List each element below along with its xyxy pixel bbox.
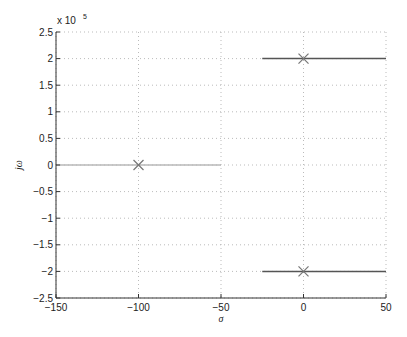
y-exponent-superscript: 5	[83, 13, 87, 20]
y-tick-label: −1	[42, 213, 54, 224]
y-axis-label: jω	[13, 160, 24, 172]
y-tick-label: 1.5	[39, 80, 53, 91]
y-tick-label: 1	[47, 106, 53, 117]
y-tick-label: −1.5	[33, 239, 53, 250]
y-exponent-label: x 10	[57, 15, 76, 26]
y-tick-label: 2	[47, 53, 53, 64]
x-axis-label: σ	[219, 313, 225, 324]
y-tick-label: −2.5	[33, 293, 53, 304]
tick-labels: −150−100−500502.521.510.50−0.5−1−1.5−2−2…	[33, 27, 392, 314]
y-tick-label: 2.5	[39, 27, 53, 38]
y-tick-label: 0	[47, 160, 53, 171]
y-tick-label: −2	[42, 266, 54, 277]
x-tick-label: 0	[301, 302, 307, 313]
y-tick-label: −0.5	[33, 186, 53, 197]
y-tick-label: 0.5	[39, 133, 53, 144]
x-tick-label: −100	[127, 302, 150, 313]
x-tick-label: 50	[380, 302, 392, 313]
root-locus-chart: −150−100−500502.521.510.50−0.5−1−1.5−2−2…	[0, 0, 407, 337]
x-tick-label: −50	[213, 302, 230, 313]
x-tick-label: −150	[45, 302, 68, 313]
